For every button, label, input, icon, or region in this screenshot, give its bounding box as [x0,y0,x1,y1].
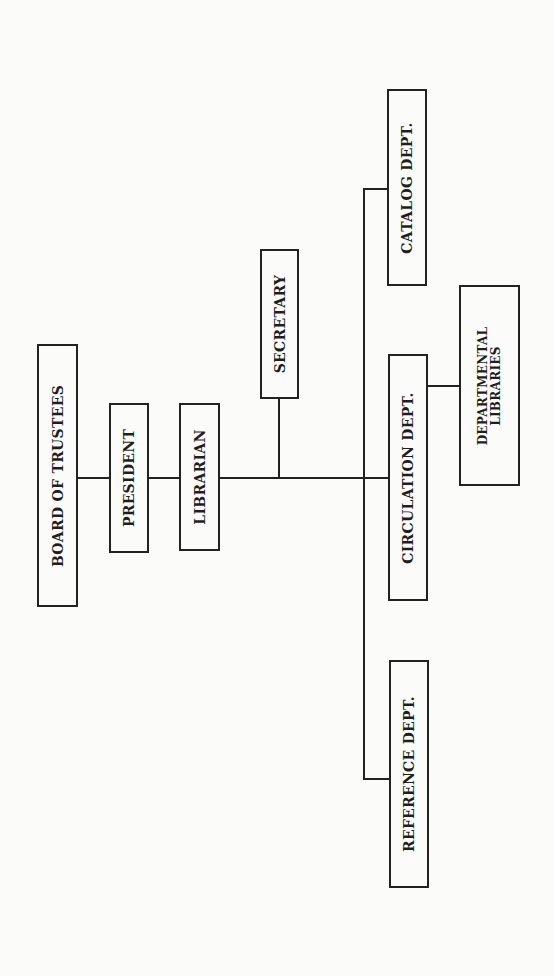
connector-board-president [77,477,109,479]
connector-reference [363,778,389,780]
node-librarian: LIBRARIAN [179,403,220,551]
connector-secretary [278,398,280,478]
node-label: CATALOG DEPT. [400,122,415,253]
connector-circulation-departmental [426,385,459,387]
node-catalog-dept: CATALOG DEPT. [387,89,427,286]
node-departmental-libraries: DEPARTMENTAL LIBRARIES [459,285,520,486]
node-circulation-dept: CIRCULATION DEPT. [388,354,428,601]
node-label: REFERENCE DEPT. [402,696,417,852]
node-label: CIRCULATION DEPT. [401,392,416,563]
node-board-of-trustees: BOARD OF TRUSTEES [37,344,78,607]
connector-president-librarian [148,477,179,479]
node-label: BOARD OF TRUSTEES [50,384,65,566]
connector-catalog [363,188,388,190]
node-label: DEPARTMENTAL LIBRARIES [477,326,503,445]
node-label: LIBRARIAN [192,429,207,524]
node-label-line2: LIBRARIES [489,346,503,426]
node-president: PRESIDENT [109,403,149,553]
node-label-line1: DEPARTMENTAL [476,326,490,445]
node-reference-dept: REFERENCE DEPT. [389,660,429,888]
vertical-trunk [363,188,365,780]
node-label: SECRETARY [272,275,287,374]
node-secretary: SECRETARY [260,249,299,399]
node-label: PRESIDENT [122,429,137,527]
